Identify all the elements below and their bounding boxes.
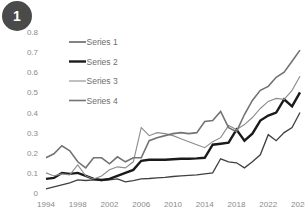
y-tick-label: 0 [34, 189, 39, 198]
y-tick-label: 0.6 [27, 68, 39, 77]
legend-item-series-3-label: Series 3 [87, 76, 118, 86]
legend-item-series-4-label: Series 4 [87, 96, 118, 106]
x-tick-label: 2010 [164, 200, 182, 209]
y-tick-label: 0.3 [27, 129, 39, 138]
chart-canvas: 00.10.20.30.40.50.60.70.8 19941998200220… [0, 0, 305, 219]
legend-item-series-1-label: Series 1 [87, 37, 118, 47]
x-tick-label: 1994 [37, 200, 55, 209]
y-axis-tick-labels: 00.10.20.30.40.50.60.70.8 [27, 28, 39, 198]
y-tick-label: 0.8 [27, 28, 39, 37]
x-axis-tick-labels: 199419982002200620102014201820222026 [37, 200, 305, 209]
line-chart-figure: 00.10.20.30.40.50.60.70.8 19941998200220… [0, 0, 305, 219]
step-badge-label: 1 [13, 9, 21, 23]
series-lines-layer [46, 50, 300, 189]
x-tick-label: 2006 [132, 200, 150, 209]
x-tick-label: 1998 [69, 200, 87, 209]
x-tick-label: 2026 [291, 200, 305, 209]
series-line-series-1 [46, 113, 300, 189]
step-badge: 1 [2, 1, 32, 31]
chart-legend: Series 1Series 2Series 3Series 4 [69, 37, 118, 106]
legend-item-series-2-label: Series 2 [87, 57, 118, 67]
x-tick-label: 2002 [101, 200, 119, 209]
x-tick-label: 2014 [196, 200, 214, 209]
series-line-series-3 [46, 76, 300, 179]
y-tick-label: 0.7 [27, 48, 39, 57]
y-tick-label: 0.5 [27, 88, 39, 97]
y-tick-label: 0.2 [27, 149, 39, 158]
y-tick-label: 0.4 [27, 109, 39, 118]
y-tick-label: 0.1 [27, 169, 39, 178]
x-tick-label: 2022 [259, 200, 277, 209]
x-tick-label: 2018 [228, 200, 246, 209]
